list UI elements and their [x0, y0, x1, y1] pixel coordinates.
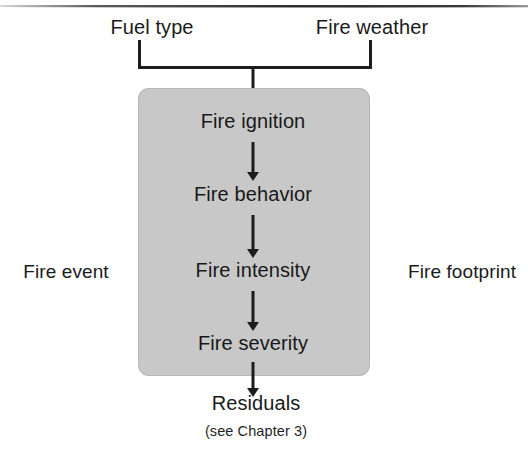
arrow-behavior-to-intensity [246, 215, 260, 259]
arrow-head [247, 249, 259, 258]
arrow-shaft [252, 215, 255, 250]
input-bracket [136, 40, 376, 72]
arrow-head [247, 172, 259, 181]
input-label-fire-weather: Fire weather [316, 16, 428, 39]
figure-canvas: Fuel type Fire weather Fire ignition Fir… [0, 0, 528, 454]
output-label-residuals: Residuals [212, 392, 301, 415]
scan-artifact-line-secondary [0, 7, 528, 8]
side-label-fire-footprint: Fire footprint [408, 261, 516, 283]
arrow-head [247, 322, 259, 331]
bracket-stem-right [369, 40, 372, 69]
arrow-shaft [252, 291, 255, 323]
arrow-intensity-to-severity [246, 291, 260, 332]
arrow-shaft [252, 362, 255, 389]
process-step-fire-intensity: Fire intensity [196, 259, 311, 282]
side-label-fire-event: Fire event [23, 261, 108, 283]
input-label-fuel-type: Fuel type [110, 16, 193, 39]
process-step-fire-behavior: Fire behavior [194, 183, 312, 206]
output-caption-chapter-reference: (see Chapter 3) [205, 423, 307, 439]
arrow-ignition-to-behavior [246, 142, 260, 182]
arrow-shaft [252, 142, 255, 173]
process-step-fire-ignition: Fire ignition [201, 110, 306, 133]
process-step-fire-severity: Fire severity [198, 332, 308, 355]
bracket-stem-left [138, 40, 141, 69]
